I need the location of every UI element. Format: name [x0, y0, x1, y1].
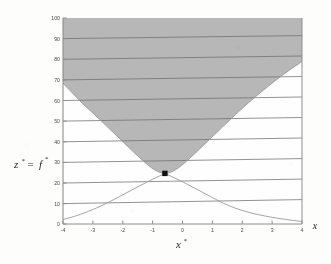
- x-tick-label: 2: [241, 227, 244, 233]
- y-tick-label: 20: [54, 180, 60, 186]
- y-tick-label: 10: [54, 201, 60, 207]
- figure-canvas: 100 90 80 70 60 50 40 30 20 10 0 -4 -3 -…: [0, 0, 331, 264]
- y-tick-label: 60: [54, 98, 60, 104]
- y-tick-label: 80: [54, 56, 60, 62]
- y-tick-label: 70: [54, 77, 60, 83]
- x-tick-label: 0: [181, 227, 184, 233]
- y-tick-label: 100: [51, 15, 60, 21]
- y-axis-label-equals: =: [28, 158, 34, 170]
- x-optimum-label-star: *: [184, 237, 188, 245]
- y-tick-label: 0: [57, 221, 60, 227]
- y-axis-label-z-star: *: [22, 157, 26, 165]
- y-axis-label-z: z: [13, 158, 19, 170]
- x-tick-label: 1: [211, 227, 214, 233]
- plot-svg: 100 90 80 70 60 50 40 30 20 10 0 -4 -3 -…: [0, 0, 331, 264]
- x-tick-label: -4: [61, 227, 66, 233]
- y-axis-label-f-star: *: [45, 155, 49, 163]
- x-tick-label: 4: [301, 227, 304, 233]
- optimum-marker: [162, 171, 167, 176]
- y-tick-label: 50: [54, 118, 60, 124]
- y-tick-label: 90: [54, 36, 60, 42]
- x-tick-label: -2: [120, 227, 125, 233]
- x-tick-label: -3: [91, 227, 96, 233]
- x-tick-label: -1: [150, 227, 155, 233]
- y-tick-label: 40: [54, 139, 60, 145]
- x-optimum-label-x: x: [175, 238, 181, 250]
- x-tick-label: 3: [271, 227, 274, 233]
- y-tick-label: 30: [54, 159, 60, 165]
- x-axis-name: x: [312, 220, 318, 231]
